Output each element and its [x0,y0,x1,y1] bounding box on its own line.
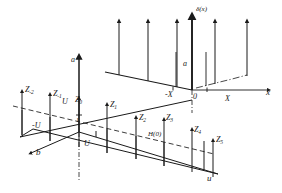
sample-label-z5: Z5 [216,136,223,144]
tick-label-minus-u: -U [32,122,40,130]
sample-label-z4: Z4 [194,126,201,134]
lower-b-axis-label: b [36,148,41,157]
upper-impulse-arrows [119,22,247,87]
tick-label-origin-upper: 0 [193,93,197,101]
upper-depth-dashdot [196,75,247,88]
sample-sub: 5 [220,139,223,145]
upper-vertical-axis-label: a [183,60,187,68]
unit-tick-label: 1 [76,117,80,124]
sample-sub: 2 [143,117,146,123]
tick-label-minus-x: -X [165,91,173,99]
sample-label-z3: Z3 [166,114,173,122]
tick-label-plus-u: U [84,140,90,148]
sample-sub: -1 [57,93,62,99]
sample-sub: 3 [170,117,173,123]
delta-function-label: δ(x) [196,6,207,13]
sample-label-z-minus2: Z-2 [25,86,34,94]
sample-sub: 4 [198,129,201,135]
lower-plane-front-edge [33,129,218,174]
transfer-function-label: H(0) [148,131,161,138]
sample-label-z1: Z1 [110,101,117,109]
sample-sub: 0 [79,99,82,105]
upper-impulse-stubs [176,52,206,87]
tick-label-plus-x: X [225,95,230,103]
lower-u-axis-label: u [207,174,212,183]
diagram-canvas [0,0,282,193]
tick-label-u-upper: U [62,98,68,106]
lower-vertical-axis-label: a [71,56,75,64]
sample-label-z-minus1: Z-1 [53,90,62,98]
sample-label-z2: Z2 [139,114,146,122]
sample-sub: 1 [114,104,117,110]
sample-label-z0: Z0 [75,96,82,104]
lower-level-dashed-line [13,106,214,154]
sample-sub: -2 [29,89,34,95]
upper-x-axis-label: x [266,88,270,97]
